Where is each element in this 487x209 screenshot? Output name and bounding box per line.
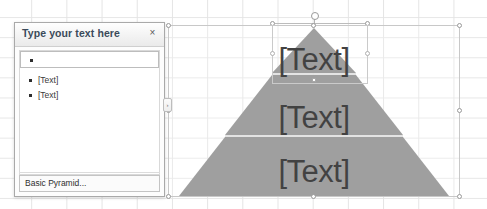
- bullet-list-item-active[interactable]: [20, 51, 159, 68]
- text-pane-bullet-list[interactable]: [Text] [Text]: [19, 50, 160, 175]
- bullet-list-item-text: [Text]: [38, 75, 58, 85]
- bullet-point-icon: [29, 79, 32, 82]
- text-pane-header: Type your text here ×: [15, 23, 164, 47]
- smartart-canvas[interactable]: [Text] [Text] [Text]: [168, 25, 460, 197]
- bullet-list-item[interactable]: [Text]: [20, 88, 159, 103]
- bullet-point-icon: [29, 94, 32, 97]
- resize-handle-bottom-left[interactable]: [166, 194, 171, 199]
- rotation-handle[interactable]: [311, 12, 319, 20]
- text-pane-divider: [19, 172, 160, 173]
- bullet-point-icon: [30, 59, 33, 62]
- resize-handle-bottom-right[interactable]: [457, 194, 462, 199]
- text-pane-collapse-toggle[interactable]: ›: [163, 98, 172, 112]
- bullet-list-item[interactable]: [Text]: [20, 73, 159, 88]
- text-pane-layout-caption[interactable]: Basic Pyramid...: [19, 175, 160, 192]
- bullet-list-item-text: [Text]: [38, 90, 58, 100]
- resize-handle-middle-right[interactable]: [457, 108, 462, 113]
- resize-handle-top-center[interactable]: [311, 23, 316, 28]
- resize-handle-top-left[interactable]: [166, 23, 171, 28]
- smartart-selection-frame: [168, 25, 460, 197]
- smartart-text-pane[interactable]: Type your text here × [Text] [Text] Basi…: [14, 22, 165, 197]
- resize-handle-bottom-center[interactable]: [311, 194, 316, 199]
- text-pane-title: Type your text here: [22, 27, 120, 39]
- resize-handle-top-right[interactable]: [457, 23, 462, 28]
- close-icon[interactable]: ×: [147, 28, 158, 39]
